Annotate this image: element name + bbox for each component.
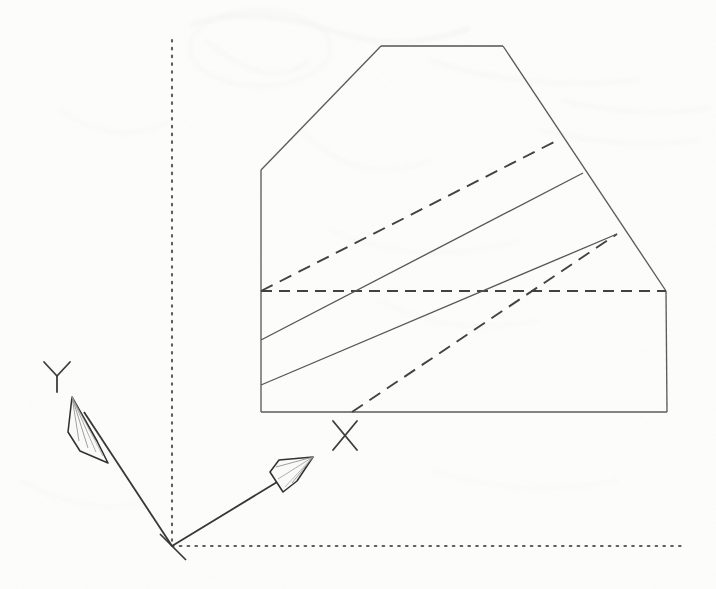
- drawing-canvas: Y X: [0, 0, 716, 589]
- paper-grain-overlay: [0, 0, 716, 589]
- technical-drawing: Y X: [0, 0, 716, 589]
